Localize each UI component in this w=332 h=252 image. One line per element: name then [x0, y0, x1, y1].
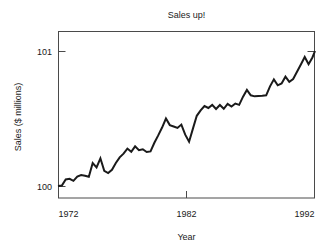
x-axis-title: Year	[177, 232, 195, 242]
chart-figure: Sales up! 101 100 1972 1982 1992 Year Sa…	[0, 0, 332, 252]
y-tick-label-101: 101	[37, 47, 52, 57]
y-axis-title: Sales ($ millions)	[13, 83, 23, 152]
chart-title: Sales up!	[168, 10, 206, 20]
x-tick-label-1972: 1972	[59, 209, 79, 219]
x-tick-label-1982: 1982	[176, 209, 196, 219]
chart-background	[0, 0, 332, 252]
x-tick-label-1992: 1992	[294, 209, 314, 219]
y-tick-label-100: 100	[37, 182, 52, 192]
line-chart: Sales up! 101 100 1972 1982 1992 Year Sa…	[0, 0, 332, 252]
